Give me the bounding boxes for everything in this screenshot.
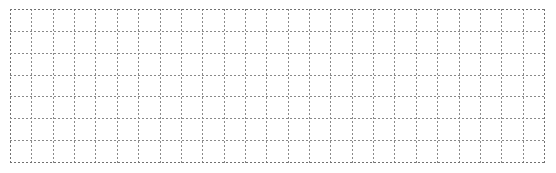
grid-vertical-line-14 <box>309 9 310 163</box>
grid-vertical-line-24 <box>523 9 524 163</box>
grid-vertical-line-12 <box>266 9 267 163</box>
grid-vertical-line-17 <box>373 9 374 163</box>
grid-canvas-root <box>0 0 556 173</box>
grid-vertical-line-4 <box>95 9 96 163</box>
grid-vertical-line-0 <box>10 9 11 163</box>
grid-vertical-rules <box>10 9 545 163</box>
grid-horizontal-line-2 <box>10 53 545 54</box>
grid-rules <box>10 9 545 163</box>
grid-vertical-line-18 <box>394 9 395 163</box>
grid-vertical-line-22 <box>480 9 481 163</box>
grid-vertical-line-19 <box>416 9 417 163</box>
grid-vertical-line-6 <box>138 9 139 163</box>
grid-vertical-line-9 <box>202 9 203 163</box>
grid-vertical-line-21 <box>459 9 460 163</box>
grid-vertical-line-10 <box>224 9 225 163</box>
grid-horizontal-line-5 <box>10 118 545 119</box>
grid-horizontal-line-7 <box>10 162 545 163</box>
grid-vertical-line-15 <box>330 9 331 163</box>
grid-horizontal-line-4 <box>10 96 545 97</box>
grid-vertical-line-7 <box>160 9 161 163</box>
dashed-grid-sheet[interactable] <box>10 9 545 163</box>
grid-horizontal-line-3 <box>10 75 545 76</box>
grid-vertical-line-20 <box>437 9 438 163</box>
grid-vertical-line-3 <box>74 9 75 163</box>
grid-vertical-line-1 <box>31 9 32 163</box>
grid-vertical-line-2 <box>53 9 54 163</box>
grid-vertical-line-13 <box>288 9 289 163</box>
grid-vertical-line-25 <box>544 9 545 163</box>
grid-vertical-line-5 <box>117 9 118 163</box>
grid-horizontal-line-6 <box>10 140 545 141</box>
grid-vertical-line-8 <box>181 9 182 163</box>
grid-horizontal-line-1 <box>10 31 545 32</box>
grid-vertical-line-11 <box>245 9 246 163</box>
grid-vertical-line-23 <box>501 9 502 163</box>
grid-vertical-line-16 <box>352 9 353 163</box>
grid-horizontal-line-0 <box>10 9 545 10</box>
grid-horizontal-rules <box>10 9 545 163</box>
